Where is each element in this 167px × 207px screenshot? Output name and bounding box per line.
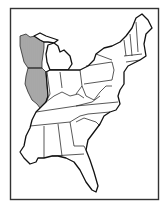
eastern-us-map bbox=[0, 0, 167, 207]
map-figure bbox=[0, 0, 167, 207]
state-michigan-lower bbox=[46, 43, 72, 70]
state-illinois bbox=[25, 68, 48, 108]
